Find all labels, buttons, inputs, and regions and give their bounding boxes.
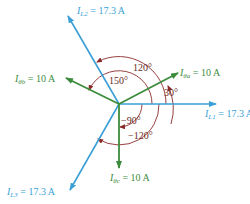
- label-IL2: IL2 = 17.3 A: [77, 6, 125, 18]
- line-currents: [68, 16, 216, 190]
- angle-label-neg120: −120°: [128, 131, 153, 141]
- label-Itha: Iθa = 10 A: [180, 68, 220, 80]
- label-IL3: IL3 = 17.3 A: [7, 187, 55, 199]
- label-Ithc: Iθc = 10 A: [110, 173, 150, 185]
- label-Ithb: Iθb = 10 A: [15, 74, 55, 86]
- angle-label-120: 120°: [133, 63, 152, 73]
- angle-label-150: 150°: [109, 76, 128, 86]
- label-IL1: IL1 = 17.3 A: [205, 109, 250, 121]
- angle-label-30: 30°: [164, 88, 178, 98]
- angle-label-neg90: −90°: [121, 116, 141, 126]
